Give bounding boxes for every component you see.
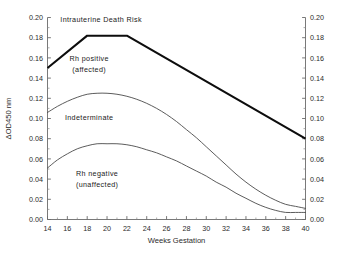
- x-axis-title: Weeks Gestation: [148, 236, 206, 245]
- annotation-rh-positive-1: Rh positive: [69, 54, 108, 63]
- y-tick-label-right: 0.02: [310, 195, 324, 204]
- annotation-rh-negative-2: (unaffected): [76, 180, 118, 189]
- y-tick-label-left: 0.18: [29, 33, 43, 42]
- y-tick-label-left: 0.16: [29, 54, 43, 63]
- y-tick-label-right: 0.12: [310, 94, 324, 103]
- x-tick-label: 30: [202, 224, 210, 233]
- y-tick-label-left: 0.06: [29, 155, 43, 164]
- y-tick-label-right: 0.14: [310, 74, 324, 83]
- x-tick-label: 18: [83, 224, 91, 233]
- annotation-rh-positive-2: (affected): [72, 65, 106, 74]
- y-tick-label-right: 0.08: [310, 134, 324, 143]
- y-tick-label-right: 0.04: [310, 175, 324, 184]
- curve-zone-boundary: [48, 144, 306, 213]
- x-tick-label: 40: [302, 224, 310, 233]
- chart-canvas: 0.000.000.020.020.040.040.060.060.080.08…: [0, 0, 344, 253]
- y-tick-label-left: 0.12: [29, 94, 43, 103]
- y-tick-label-right: 0.10: [310, 114, 324, 123]
- x-tick-label: 20: [103, 224, 111, 233]
- y-tick-label-right: 0.20: [310, 13, 324, 22]
- x-tick-label: 34: [242, 224, 250, 233]
- annotation-indeterminate: Indeterminate: [65, 113, 114, 122]
- y-tick-label-left: 0.10: [29, 114, 43, 123]
- y-tick-label-right: 0.16: [310, 54, 324, 63]
- y-axis-title: ΔOD450 nm: [4, 98, 13, 140]
- x-tick-label: 14: [44, 224, 52, 233]
- curve-intrauterine-death-risk: [48, 36, 306, 139]
- y-tick-label-right: 0.00: [310, 215, 324, 224]
- y-tick-label-left: 0.02: [29, 195, 43, 204]
- x-tick-label: 32: [222, 224, 230, 233]
- y-tick-label-left: 0.20: [29, 13, 43, 22]
- x-tick-label: 38: [282, 224, 290, 233]
- annotation-death-risk: Intrauterine Death Risk: [60, 15, 142, 24]
- y-tick-label-left: 0.08: [29, 134, 43, 143]
- annotation-rh-negative-1: Rh negative: [76, 169, 118, 178]
- x-tick-label: 26: [163, 224, 171, 233]
- y-tick-label-right: 0.06: [310, 155, 324, 164]
- y-tick-label-left: 0.00: [29, 215, 43, 224]
- x-tick-label: 36: [262, 224, 270, 233]
- y-tick-label-left: 0.04: [29, 175, 43, 184]
- x-tick-label: 28: [182, 224, 190, 233]
- x-tick-label: 16: [63, 224, 71, 233]
- liley-graph: 0.000.000.020.020.040.040.060.060.080.08…: [0, 0, 344, 253]
- y-tick-label-left: 0.14: [29, 74, 43, 83]
- x-tick-label: 24: [143, 224, 151, 233]
- curve-zone-boundary: [48, 93, 306, 208]
- y-tick-label-right: 0.18: [310, 33, 324, 42]
- x-tick-label: 22: [123, 224, 131, 233]
